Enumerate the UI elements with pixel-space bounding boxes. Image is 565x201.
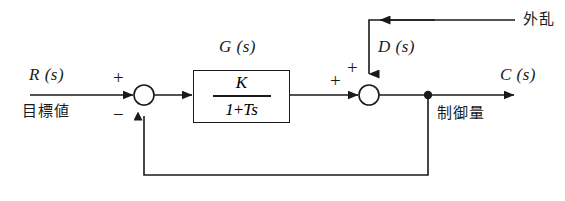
plant-transfer-function-block: K 1+Ts: [193, 70, 290, 123]
fraction-bar: [213, 95, 271, 96]
summing-junction-1: [134, 85, 154, 105]
plant-label: G (s): [219, 38, 256, 55]
summing-junction-2: [359, 85, 379, 105]
sum1-plus-sign: +: [113, 68, 124, 87]
reference-name-label: 目標値: [22, 104, 70, 119]
output-name-label: 制御量: [437, 106, 485, 121]
sum2-plus-sign-disturbance: +: [347, 58, 358, 77]
disturbance-symbol-label: D (s): [378, 38, 415, 55]
block-diagram-canvas: K 1+Ts G (s) R (s) 目標値 + − + + D (s) 外乱 …: [0, 0, 565, 201]
denominator-operator: +: [234, 100, 244, 119]
transfer-function-denominator: 1+Ts: [225, 99, 258, 120]
output-symbol-label: C (s): [500, 66, 536, 83]
sum1-minus-sign: −: [113, 105, 124, 124]
denominator-term-2: Ts: [243, 100, 258, 119]
sum2-plus-sign-forward: +: [330, 71, 341, 90]
transfer-function-fraction: K 1+Ts: [194, 71, 289, 122]
transfer-function-numerator: K: [236, 73, 247, 94]
denominator-term-1: 1: [225, 100, 234, 119]
reference-symbol-label: R (s): [29, 66, 64, 83]
disturbance-name-label: 外乱: [523, 12, 555, 27]
